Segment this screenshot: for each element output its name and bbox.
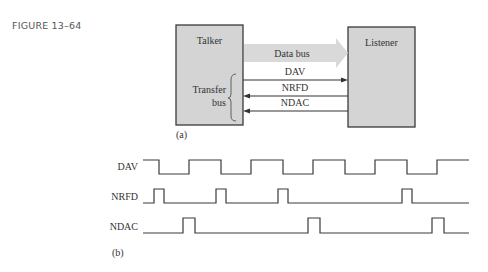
ndac-label-b: NDAC: [110, 221, 139, 232]
ndac-arrowhead: [243, 109, 250, 114]
panel-label-a: (a): [176, 129, 187, 141]
talker-label: Talker: [197, 35, 223, 46]
transfer-bus-label-2: bus: [212, 97, 226, 108]
timing-diagram: DAV NRFD NDAC (b): [110, 160, 469, 259]
block-diagram: Talker Listener Data bus DAV NRFD NDAC T…: [176, 25, 415, 141]
dav-waveform: [143, 160, 469, 174]
dav-label-a: DAV: [285, 66, 306, 77]
nrfd-label-b: NRFD: [111, 191, 138, 202]
panel-label-b: (b): [112, 247, 124, 259]
ndac-label-a: NDAC: [281, 97, 310, 108]
figure-canvas: Talker Listener Data bus DAV NRFD NDAC T…: [0, 0, 488, 272]
nrfd-waveform: [143, 189, 469, 203]
ndac-waveform: [143, 218, 469, 233]
data-bus-label: Data bus: [274, 48, 309, 59]
nrfd-arrowhead: [243, 94, 250, 99]
dav-arrowhead: [341, 78, 348, 83]
listener-label: Listener: [365, 37, 398, 48]
transfer-bus-label-1: Transfer: [192, 84, 226, 95]
dav-label-b: DAV: [118, 161, 139, 172]
nrfd-label-a: NRFD: [282, 82, 309, 93]
